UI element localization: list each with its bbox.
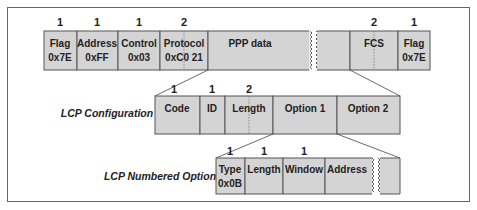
field-label: Type: [219, 164, 242, 175]
field-label: Length: [247, 164, 280, 175]
field-label: PPP data: [228, 38, 272, 49]
field-value: 0x0B: [218, 178, 242, 189]
field-option-2: [337, 96, 400, 134]
field-label: Length: [232, 103, 265, 114]
field-label: Option 2: [348, 103, 389, 114]
size-label: 1: [227, 145, 233, 157]
size-label: 1: [136, 16, 142, 28]
size-label: 2: [371, 16, 377, 28]
field-label: Code: [165, 103, 190, 114]
field-value: 0xFF: [85, 52, 108, 63]
field-label: Protocol: [164, 38, 205, 49]
field-code: [155, 96, 200, 134]
size-label: 1: [171, 83, 177, 95]
size-label: 1: [301, 145, 307, 157]
lcp-numbered-option-caption: LCP Numbered Option: [104, 170, 216, 182]
field-label: Option 1: [285, 103, 326, 114]
field-flag-end: [398, 31, 430, 70]
field-label: Control: [121, 38, 157, 49]
field-ppp-data: [208, 31, 311, 70]
field-label: Window: [285, 164, 323, 175]
field-label: Address: [77, 38, 117, 49]
field-address: [77, 31, 118, 70]
field-option-1: [273, 96, 337, 134]
size-label: 1: [57, 16, 63, 28]
field-control: [118, 31, 160, 70]
size-label: 2: [181, 16, 187, 28]
field-label: Address: [327, 164, 367, 175]
size-label: 1: [261, 145, 267, 157]
field-value: 0xC0 21: [165, 52, 203, 63]
field-ppp-data-tail: [317, 31, 350, 70]
size-label: 1: [209, 83, 215, 95]
field-address-tail: [380, 158, 400, 194]
field-label: ID: [207, 103, 217, 114]
field-label: FCS: [364, 38, 384, 49]
field-value: 0x03: [128, 52, 151, 63]
field-value: 0x7E: [402, 52, 426, 63]
size-label: 1: [411, 16, 417, 28]
field-value: 0x7E: [48, 52, 72, 63]
size-label: 2: [246, 83, 252, 95]
size-label: 1: [94, 16, 100, 28]
field-flag-start: [44, 31, 77, 70]
field-label: Flag: [50, 38, 71, 49]
field-label: Flag: [404, 38, 425, 49]
ppp-lcp-diagram: 1 1 1 2 2 1 Flag 0x7E Address 0xFF Contr…: [0, 0, 477, 210]
lcp-configuration-caption: LCP Configuration: [61, 107, 153, 119]
field-id: [200, 96, 225, 134]
